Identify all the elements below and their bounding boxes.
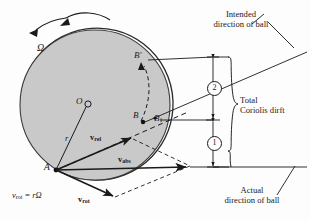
actual-line-2: direction of ball xyxy=(207,196,297,206)
point-b1-label: B1 xyxy=(154,113,163,124)
v-rel-label: vrel xyxy=(90,126,101,144)
center-point-label: O xyxy=(76,96,83,106)
coriolis-brace xyxy=(228,57,238,151)
callout-one: 1 xyxy=(207,136,222,151)
callout-two: 2 xyxy=(207,81,222,96)
v-abs-subscript: abs xyxy=(122,158,131,164)
total-line-2: Coriolis dirft xyxy=(240,106,285,116)
formula-lhs-subscript: rot xyxy=(16,194,23,200)
point-b1-subscript: 1 xyxy=(160,117,163,123)
v-rot-formula: vrot= rΩ xyxy=(12,191,42,201)
v-abs-label: vabs xyxy=(118,148,131,166)
intended-line-2: direction of ball xyxy=(198,20,284,30)
v-rel-subscript: rel xyxy=(94,136,101,142)
radius-label: r xyxy=(65,134,68,144)
diagram-canvas: Ω O r A B B1 B′ vrel vabs vrot vrot= rΩ … xyxy=(0,0,310,221)
v-rot-subscript: rot xyxy=(82,198,90,204)
total-coriolis-drift-caption: Total Coriolis dirft xyxy=(240,96,285,115)
formula-rhs: = rΩ xyxy=(24,190,41,200)
point-b-dot xyxy=(141,120,145,124)
point-b-label: B xyxy=(133,110,139,120)
point-b-prime-label: B′ xyxy=(134,50,141,60)
omega-label: Ω xyxy=(37,42,44,53)
point-a-label: A xyxy=(44,162,50,173)
intended-direction-caption: Intended direction of ball xyxy=(198,10,284,29)
v-rot-label: vrot xyxy=(78,188,90,206)
actual-direction-caption: Actual direction of ball xyxy=(207,186,297,205)
brace-lower-tail xyxy=(228,151,231,167)
